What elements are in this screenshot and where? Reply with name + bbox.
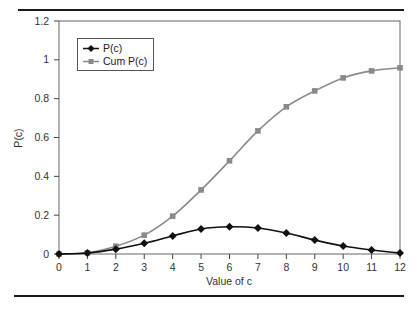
y-axis-title: P(c) xyxy=(12,128,24,147)
square-marker xyxy=(227,158,233,164)
legend-label-pc: P(c) xyxy=(103,42,122,55)
series-pc xyxy=(55,223,404,258)
diamond-marker-icon xyxy=(83,44,99,53)
legend-label-cum-pc: Cum P(c) xyxy=(103,55,147,68)
x-tick-label: 12 xyxy=(394,261,406,273)
legend: P(c) Cum P(c) xyxy=(77,38,154,71)
square-marker-icon xyxy=(83,57,99,66)
x-tick-label: 11 xyxy=(366,261,377,273)
y-tick-label: 1.2 xyxy=(34,15,49,27)
x-tick-label: 8 xyxy=(283,261,289,273)
square-marker xyxy=(340,75,346,81)
diamond-marker xyxy=(197,225,205,233)
diamond-marker xyxy=(311,236,319,244)
square-marker xyxy=(141,232,147,238)
square-marker xyxy=(170,213,176,219)
x-tick-label: 10 xyxy=(337,261,349,273)
line-chart: 00.20.40.60.811.2 0123456789101112 Value… xyxy=(0,0,418,310)
x-tick-label: 6 xyxy=(227,261,233,273)
square-marker xyxy=(397,65,403,71)
legend-item-cum-pc: Cum P(c) xyxy=(83,55,147,68)
y-tick-label: 1 xyxy=(43,53,49,65)
x-axis-title: Value of c xyxy=(206,275,252,287)
square-marker xyxy=(369,68,375,74)
diamond-marker xyxy=(282,229,290,237)
x-tick-label: 1 xyxy=(84,261,90,273)
diamond-marker xyxy=(169,232,177,240)
y-tick-label: 0.8 xyxy=(34,92,49,104)
x-tick-label: 0 xyxy=(56,261,62,273)
diamond-marker xyxy=(396,249,404,257)
legend-item-pc: P(c) xyxy=(83,42,147,55)
diamond-marker xyxy=(339,242,347,250)
square-marker xyxy=(284,104,290,110)
y-axis: 00.20.40.60.811.2 xyxy=(34,15,59,260)
y-tick-label: 0.2 xyxy=(34,209,49,221)
diamond-marker xyxy=(226,223,234,231)
series-line xyxy=(59,227,400,254)
y-tick-label: 0 xyxy=(43,248,49,260)
series-layer xyxy=(55,65,404,258)
x-tick-label: 7 xyxy=(255,261,261,273)
square-marker xyxy=(255,128,261,134)
x-tick-label: 2 xyxy=(113,261,119,273)
x-axis: 0123456789101112 xyxy=(56,254,406,273)
x-tick-label: 3 xyxy=(141,261,147,273)
diamond-marker xyxy=(140,239,148,247)
diamond-marker xyxy=(254,224,262,232)
x-tick-label: 9 xyxy=(312,261,318,273)
square-marker xyxy=(198,187,204,193)
x-tick-label: 5 xyxy=(198,261,204,273)
diamond-marker xyxy=(368,246,376,254)
y-tick-label: 0.6 xyxy=(34,131,49,143)
x-tick-label: 4 xyxy=(170,261,176,273)
y-tick-label: 0.4 xyxy=(34,170,49,182)
square-marker xyxy=(312,88,318,94)
